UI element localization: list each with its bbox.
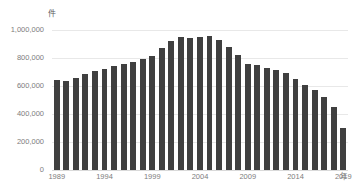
bar [168, 41, 174, 171]
bar [340, 128, 346, 170]
bars-layer [52, 30, 348, 170]
bar [159, 48, 165, 170]
bar [312, 90, 318, 170]
bar [54, 80, 60, 170]
gridline [52, 170, 348, 171]
bar [73, 78, 79, 170]
bar [102, 69, 108, 170]
bar [207, 36, 213, 170]
bar [140, 59, 146, 170]
bar [187, 38, 193, 170]
bar [245, 64, 251, 170]
x-axis-tick-label: 2014 [287, 172, 304, 182]
y-axis-tick-label: 400,000 [0, 110, 44, 118]
x-axis-tick-label: 1994 [96, 172, 113, 182]
bar [254, 65, 260, 170]
bar [321, 97, 327, 170]
plot-area [52, 30, 348, 170]
y-axis-tick-label: 1,000,000 [0, 26, 44, 34]
bar [197, 37, 203, 170]
y-axis-unit-label: 件 [40, 9, 64, 19]
bar [235, 55, 241, 170]
bar [273, 70, 279, 170]
y-axis-tick-label: 200,000 [0, 138, 44, 146]
x-axis-tick-label: 1999 [144, 172, 161, 182]
y-axis-tick-label: 0 [0, 166, 44, 174]
bar [63, 81, 69, 170]
bar-chart: 件 0200,000400,000600,000800,0001,000,000… [0, 0, 360, 196]
bar [121, 64, 127, 170]
bar [226, 47, 232, 170]
y-axis-tick-label: 800,000 [0, 54, 44, 62]
y-axis-tick-label: 600,000 [0, 82, 44, 90]
bar [216, 40, 222, 170]
bar [302, 85, 308, 170]
bar [92, 71, 98, 170]
x-axis-tick-label: 2009 [239, 172, 256, 182]
x-axis-tick-labels: 1989199419992004200920142019 [52, 172, 348, 186]
x-axis-unit-label: 年 [340, 172, 347, 182]
bar [283, 73, 289, 170]
x-axis-tick-label: 1989 [48, 172, 65, 182]
bar [82, 74, 88, 170]
bar [293, 79, 299, 170]
x-axis-tick-label: 2004 [192, 172, 209, 182]
bar [130, 62, 136, 171]
bar [178, 37, 184, 170]
bar [331, 107, 337, 170]
bar [264, 68, 270, 170]
bar [111, 66, 117, 170]
bar [149, 56, 155, 170]
